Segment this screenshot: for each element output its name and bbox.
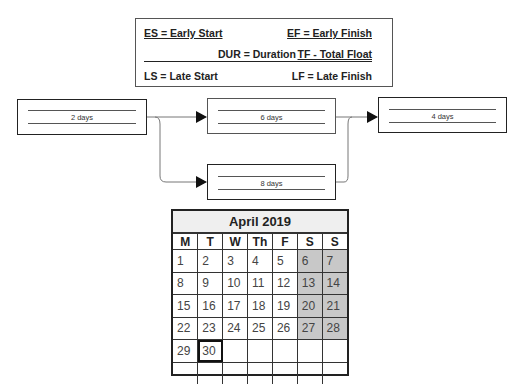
empty-cell xyxy=(223,362,248,384)
weekday-sat: S xyxy=(297,234,322,250)
weekday-fri: F xyxy=(272,234,297,250)
activity-node-c: 8 days xyxy=(207,164,336,200)
day-cell[interactable]: 24 xyxy=(223,317,248,340)
node-top-line xyxy=(218,110,325,111)
arrow-c-to-d xyxy=(336,117,352,182)
day-cell[interactable]: 9 xyxy=(198,272,223,295)
day-cell[interactable]: 1 xyxy=(173,250,198,273)
selected-day-cell[interactable]: 30 xyxy=(198,340,223,363)
node-duration: 6 days xyxy=(208,113,335,122)
day-cell[interactable]: 26 xyxy=(272,317,297,340)
node-bottom-line xyxy=(218,123,325,124)
day-cell[interactable]: 16 xyxy=(198,295,223,318)
weekend-day-cell[interactable]: 7 xyxy=(322,250,347,273)
weekday-thu: Th xyxy=(248,234,273,250)
weekday-tue: T xyxy=(198,234,223,250)
node-duration: 2 days xyxy=(18,113,146,122)
day-cell[interactable]: 2 xyxy=(198,250,223,273)
weekend-day-cell[interactable]: 20 xyxy=(297,295,322,318)
calendar-title: April 2019 xyxy=(173,211,347,233)
day-cell[interactable]: 4 xyxy=(248,250,273,273)
day-cell[interactable]: 19 xyxy=(272,295,297,318)
empty-cell xyxy=(322,340,347,363)
activity-node-b: 6 days xyxy=(207,98,336,134)
weekend-day-cell[interactable]: 6 xyxy=(297,250,322,273)
activity-node-d: 4 days xyxy=(378,97,507,133)
weekday-mon: M xyxy=(173,234,198,250)
empty-cell xyxy=(223,340,248,363)
empty-cell xyxy=(272,362,297,384)
weekend-day-cell[interactable]: 21 xyxy=(322,295,347,318)
weekday-sun: S xyxy=(322,234,347,250)
weekend-day-cell[interactable]: 14 xyxy=(322,272,347,295)
day-cell[interactable]: 22 xyxy=(173,317,198,340)
node-top-line xyxy=(389,109,496,110)
week-row: 1 2 3 4 5 6 7 xyxy=(173,250,347,273)
weekday-header-row: M T W Th F S S xyxy=(173,234,347,250)
day-cell[interactable]: 3 xyxy=(223,250,248,273)
empty-cell xyxy=(297,340,322,363)
node-top-line xyxy=(28,110,136,111)
empty-cell xyxy=(272,340,297,363)
week-row: 22 23 24 25 26 27 28 xyxy=(173,317,347,340)
node-top-line xyxy=(218,176,325,177)
day-cell[interactable]: 10 xyxy=(223,272,248,295)
node-bottom-line xyxy=(389,122,496,123)
day-cell[interactable]: 11 xyxy=(248,272,273,295)
day-cell[interactable]: 17 xyxy=(223,295,248,318)
node-bottom-line xyxy=(218,189,325,190)
arrow-a-to-c xyxy=(155,117,205,182)
week-row: 29 30 xyxy=(173,340,347,363)
day-cell[interactable]: 15 xyxy=(173,295,198,318)
empty-cell xyxy=(248,362,273,384)
week-row: 8 9 10 11 12 13 14 xyxy=(173,272,347,295)
weekday-wed: W xyxy=(223,234,248,250)
node-duration: 4 days xyxy=(379,112,506,121)
empty-cell xyxy=(297,362,322,384)
empty-cell xyxy=(198,362,223,384)
day-cell[interactable]: 29 xyxy=(173,340,198,363)
activity-node-a: 2 days xyxy=(17,99,147,135)
calendar-grid: M T W Th F S S 1 2 3 4 5 6 7 8 9 1 xyxy=(173,233,347,384)
day-cell[interactable]: 12 xyxy=(272,272,297,295)
empty-cell xyxy=(248,340,273,363)
day-cell[interactable]: 18 xyxy=(248,295,273,318)
day-cell[interactable]: 25 xyxy=(248,317,273,340)
week-row xyxy=(173,362,347,384)
day-cell[interactable]: 5 xyxy=(272,250,297,273)
day-cell[interactable]: 8 xyxy=(173,272,198,295)
empty-cell xyxy=(322,362,347,384)
calendar: April 2019 M T W Th F S S 1 2 3 4 5 6 7 xyxy=(171,209,349,376)
empty-cell xyxy=(173,362,198,384)
node-bottom-line xyxy=(28,123,136,124)
weekend-day-cell[interactable]: 27 xyxy=(297,317,322,340)
day-cell[interactable]: 23 xyxy=(198,317,223,340)
weekend-day-cell[interactable]: 28 xyxy=(322,317,347,340)
node-duration: 8 days xyxy=(208,179,335,188)
weekend-day-cell[interactable]: 13 xyxy=(297,272,322,295)
week-row: 15 16 17 18 19 20 21 xyxy=(173,295,347,318)
